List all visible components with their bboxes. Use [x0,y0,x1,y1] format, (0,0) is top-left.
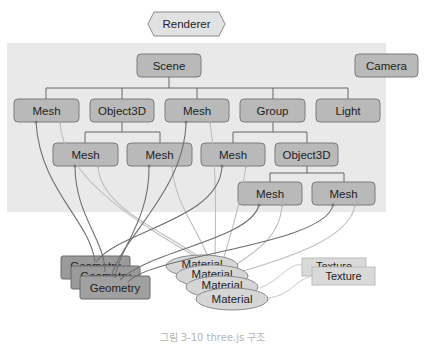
node-label: Object3D [283,149,331,161]
object3d-node: Object3D [275,143,338,166]
group-node: Group [240,99,305,122]
node-label: Light [336,105,362,117]
node-label: Object3D [98,105,146,117]
mesh-node: Mesh [201,143,265,166]
scene-node: Scene [137,54,201,77]
mesh-node: Mesh [165,99,229,122]
mesh-node: Mesh [238,182,302,205]
renderer-label: Renderer [163,18,211,30]
node-label: Mesh [32,105,60,117]
node-label: Mesh [71,149,99,161]
geometry-stack: Geometry Geometry Geometry [61,256,150,299]
mesh-node: Mesh [127,143,192,166]
node-label: Mesh [329,188,357,200]
node-label: Mesh [183,105,211,117]
texture-label: Texture [325,270,361,282]
light-node: Light [316,99,380,122]
mesh-node: Mesh [53,143,118,166]
row1-nodes: Mesh Object3D Mesh Group Light [14,99,380,122]
mesh-node: Mesh [14,99,79,122]
camera-node: Camera [355,54,418,77]
material-stack: Material Material Material Material [166,255,268,310]
figure-caption: 그림 3-10 three.js 구조 [0,329,425,344]
texture-stack: Texture Texture [302,258,375,285]
node-label: Group [257,105,289,117]
object3d-node: Object3D [90,99,154,122]
camera-label: Camera [366,60,408,72]
node-label: Mesh [145,149,173,161]
node-label: Mesh [219,149,247,161]
renderer-node: Renderer [148,12,225,36]
material-label: Material [212,293,253,305]
scene-label: Scene [153,60,186,72]
geometry-label: Geometry [90,282,141,294]
node-label: Mesh [256,188,284,200]
mesh-node: Mesh [312,182,375,205]
